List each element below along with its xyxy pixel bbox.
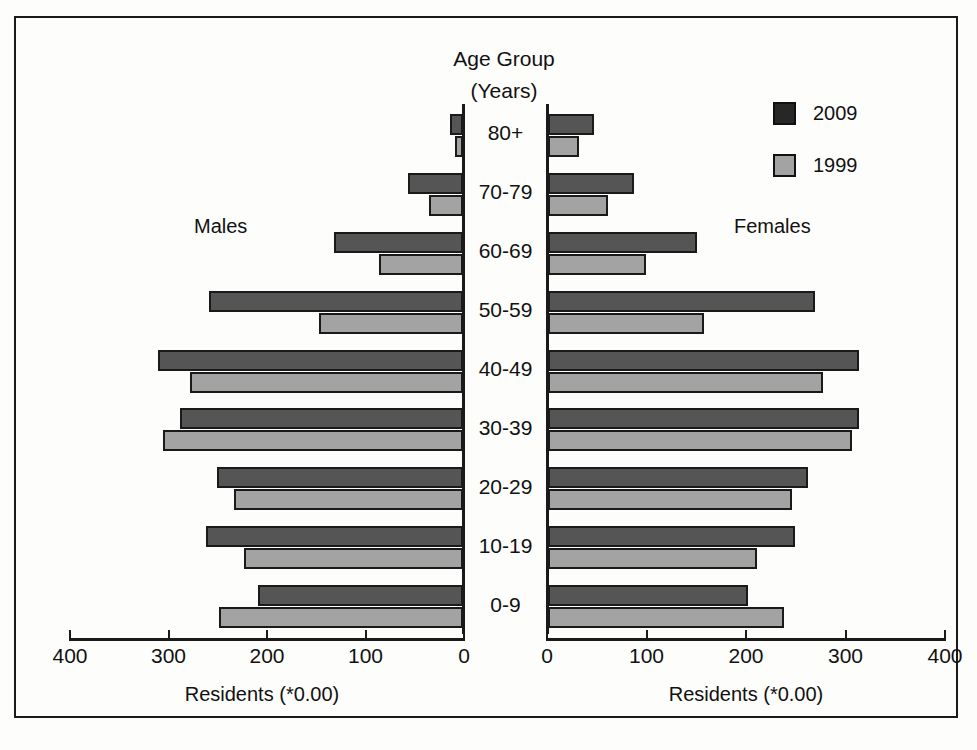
bar-males-40-49-2009 [158,350,463,371]
axis-tick [845,630,847,639]
axis-tick-label-300: 300 [806,644,886,668]
axis-tick [69,630,71,639]
axis-tick-label-0: 0 [507,644,587,668]
axis-tick-label-400: 400 [905,644,977,668]
axis-tick-label-400: 400 [30,644,110,668]
bar-males-20-29-1999 [234,489,464,510]
axis-tick [944,630,946,639]
bar-males-20-29-2009 [217,467,463,488]
females-bars-pane [548,104,946,634]
bar-females-50-59-2009 [548,291,815,312]
bar-females-30-39-2009 [548,408,859,429]
page-subtitle: (Years) [404,78,604,104]
axis-tick [266,630,268,639]
axis-tick-label-200: 200 [227,644,307,668]
bar-males-40-49-1999 [190,372,463,393]
bar-females-80plus-1999 [548,136,579,157]
bar-males-60-69-2009 [334,232,463,253]
axis-tick [546,630,548,639]
bar-males-70-79-1999 [429,195,463,216]
axis-tick-label-100: 100 [607,644,687,668]
bar-females-40-49-2009 [548,350,859,371]
axis-tick-label-200: 200 [706,644,786,668]
bar-females-60-69-1999 [548,254,646,275]
category-label-60-69: 60-69 [465,239,546,263]
category-label-40-49: 40-49 [465,357,546,381]
bar-females-70-79-2009 [548,173,634,194]
bar-females-20-29-1999 [548,489,792,510]
bar-males-50-59-2009 [209,291,463,312]
axis-tick [168,630,170,639]
page-title: Age Group [404,46,604,72]
bar-males-10-19-2009 [206,526,463,547]
axis-tick [463,630,465,639]
bar-males-30-39-2009 [180,408,463,429]
chart-frame: Age Group (Years) Males Females 2009 199… [14,16,958,718]
bar-females-10-19-1999 [548,548,757,569]
bar-males-0-9-1999 [219,607,463,628]
category-label-30-39: 30-39 [465,416,546,440]
bar-females-40-49-1999 [548,372,823,393]
bar-males-70-79-2009 [408,173,463,194]
bar-females-20-29-2009 [548,467,808,488]
category-label-50-59: 50-59 [465,298,546,322]
category-label-0-9: 0-9 [465,593,546,617]
females-axis-caption: Residents (*0.00) [546,682,946,706]
bar-males-80plus-1999 [455,136,463,157]
bar-females-0-9-2009 [548,585,748,606]
bar-females-80plus-2009 [548,114,594,135]
axis-tick-label-0: 0 [424,644,504,668]
bar-females-30-39-1999 [548,430,852,451]
bar-males-10-19-1999 [244,548,463,569]
axis-tick [365,630,367,639]
axis-tick-label-100: 100 [326,644,406,668]
category-label-20-29: 20-29 [465,475,546,499]
bar-males-0-9-2009 [258,585,463,606]
bar-females-0-9-1999 [548,607,784,628]
category-label-80plus: 80+ [465,121,546,145]
males-bars-pane [69,104,463,634]
bar-males-30-39-1999 [163,430,463,451]
bar-females-60-69-2009 [548,232,697,253]
bar-females-10-19-2009 [548,526,795,547]
category-label-70-79: 70-79 [465,180,546,204]
axis-tick [745,630,747,639]
axis-tick-label-300: 300 [129,644,209,668]
bar-males-80plus-2009 [450,114,463,135]
bar-males-50-59-1999 [319,313,463,334]
category-label-10-19: 10-19 [465,534,546,558]
bar-females-50-59-1999 [548,313,704,334]
axis-tick [646,630,648,639]
bar-males-60-69-1999 [379,254,463,275]
bar-females-70-79-1999 [548,195,608,216]
males-axis-caption: Residents (*0.00) [62,682,462,706]
population-pyramid-figure: Age Group (Years) Males Females 2009 199… [0,0,977,750]
